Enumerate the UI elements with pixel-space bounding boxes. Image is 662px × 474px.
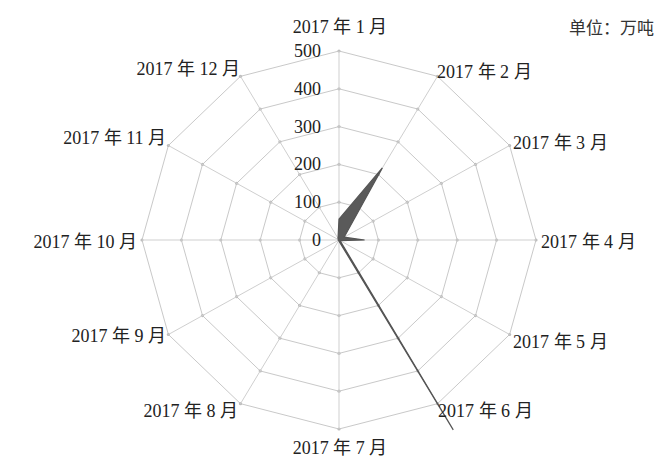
category-label-1: 2017 年 1 月 [293, 17, 388, 37]
category-label-6: 2017 年 6 月 [438, 401, 533, 421]
category-label-4: 2017 年 4 月 [541, 232, 636, 252]
category-label-2: 2017 年 2 月 [437, 62, 532, 82]
radar-chart: 0100200300400500 2017 年 1 月2017 年 2 月201… [0, 0, 662, 474]
radial-tick-label: 0 [312, 230, 321, 250]
axis-spoke [168, 240, 339, 335]
unit-label: 单位：万吨 [569, 14, 654, 39]
radial-tick-label: 500 [294, 41, 321, 61]
category-label-11: 2017 年 11 月 [63, 128, 166, 148]
radial-tick-label: 300 [294, 117, 321, 137]
category-label-8: 2017 年 8 月 [144, 401, 239, 421]
category-label-9: 2017 年 9 月 [72, 326, 167, 346]
category-label-7: 2017 年 7 月 [293, 438, 388, 458]
axis-spoke [241, 240, 340, 404]
radial-tick-label: 100 [294, 192, 321, 212]
axis-spoke [339, 240, 510, 335]
radar-series-area [338, 168, 453, 430]
series-polygon [338, 168, 453, 430]
category-label-5: 2017 年 5 月 [513, 332, 608, 352]
category-label-3: 2017 年 3 月 [513, 133, 608, 153]
radial-tick-label: 200 [294, 154, 321, 174]
radial-tick-label: 400 [294, 79, 321, 99]
category-label-10: 2017 年 10 月 [34, 232, 138, 252]
axis-spoke [241, 76, 340, 240]
category-label-12: 2017 年 12 月 [137, 59, 241, 79]
